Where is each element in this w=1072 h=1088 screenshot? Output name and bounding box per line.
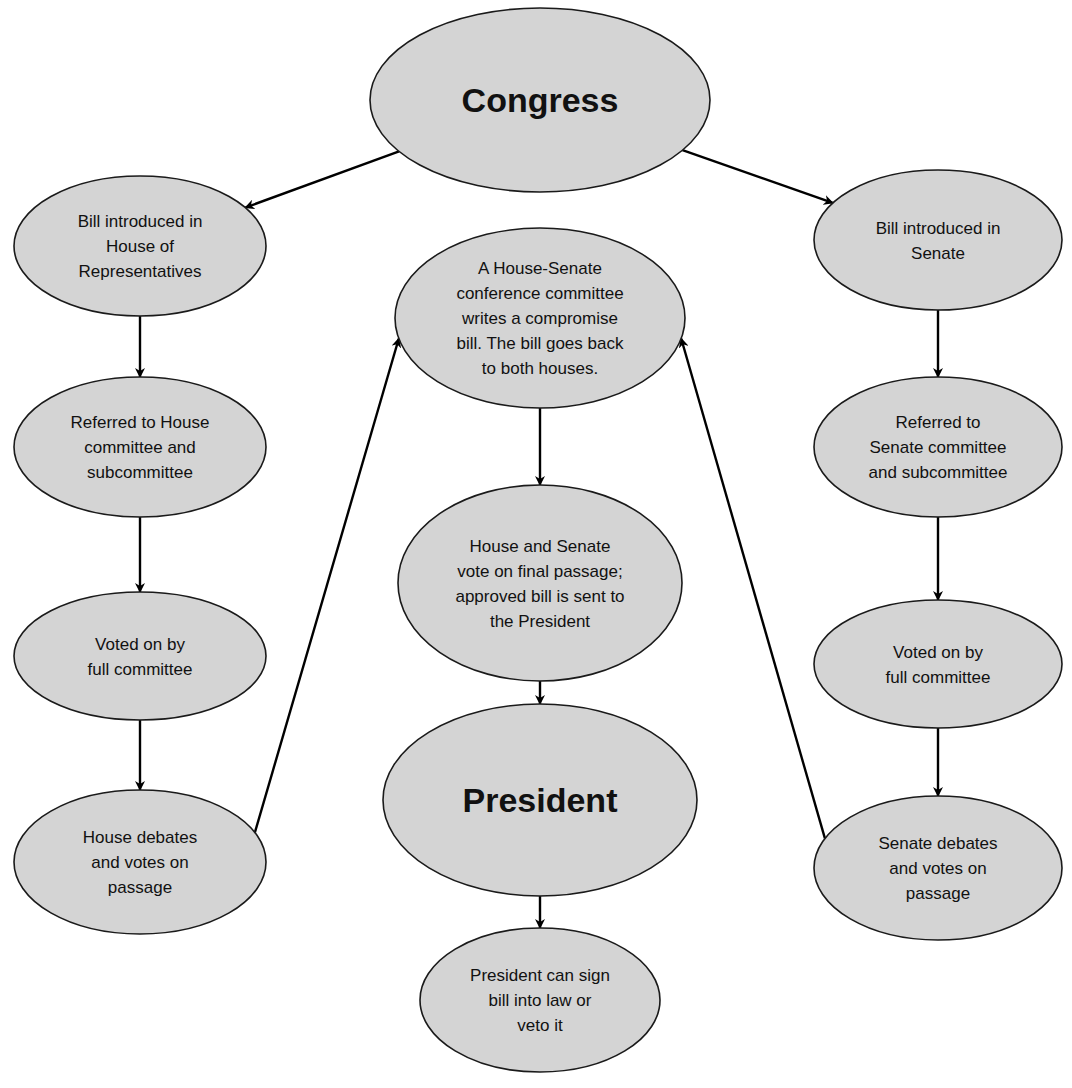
- node-label-line: Referred to House: [71, 413, 210, 432]
- node-label-line: Bill introduced in: [876, 219, 1001, 238]
- node-label-line: the President: [490, 612, 590, 631]
- node-label-line: veto it: [517, 1016, 563, 1035]
- arrow-senate-debate-to-conference: [681, 338, 825, 838]
- bill-to-law-flowchart: CongressBill introduced inHouse ofRepres…: [0, 0, 1072, 1088]
- node-label-line: subcommittee: [87, 463, 193, 482]
- node-label-line: bill into law or: [489, 991, 592, 1010]
- node-senate-debate: Senate debatesand votes onpassage: [814, 796, 1062, 940]
- node-label-line: Voted on by: [893, 643, 983, 662]
- node-label-line: to both houses.: [482, 359, 598, 378]
- node-label-line: full committee: [886, 668, 991, 687]
- node-label-line: committee and: [84, 438, 196, 457]
- node-senate-intro: Bill introduced inSenate: [814, 170, 1062, 310]
- arrow-house-debate-to-conference: [255, 338, 399, 832]
- node-house-full-vote: Voted on byfull committee: [14, 592, 266, 720]
- node-shape: [14, 592, 266, 720]
- node-shape: [814, 600, 1062, 728]
- node-label-line: Referred to: [895, 413, 980, 432]
- node-label-line: Voted on by: [95, 635, 185, 654]
- node-label-line: conference committee: [456, 284, 623, 303]
- node-label-line: House and Senate: [470, 537, 611, 556]
- node-house-committee: Referred to Housecommittee andsubcommitt…: [14, 377, 266, 517]
- node-label-line: A House-Senate: [478, 259, 602, 278]
- node-label-line: Representatives: [79, 262, 202, 281]
- arrow-congress-to-senate-intro: [683, 150, 833, 203]
- node-label-line: Senate committee: [869, 438, 1006, 457]
- node-label-line: full committee: [88, 660, 193, 679]
- node-label-line: writes a compromise: [461, 309, 618, 328]
- node-president: President: [383, 704, 697, 896]
- node-house-intro: Bill introduced inHouse ofRepresentative…: [14, 176, 266, 316]
- node-label-line: passage: [906, 884, 970, 903]
- node-shape: [398, 485, 682, 681]
- node-label-line: bill. The bill goes back: [457, 334, 624, 353]
- node-label-line: and votes on: [889, 859, 986, 878]
- node-label-line: President: [463, 781, 618, 819]
- node-house-debate: House debatesand votes onpassage: [14, 790, 266, 934]
- node-label-line: Senate debates: [878, 834, 997, 853]
- node-label-line: House of: [106, 237, 174, 256]
- node-label-line: and votes on: [91, 853, 188, 872]
- node-label-line: House debates: [83, 828, 197, 847]
- node-conference: A House-Senateconference committeewrites…: [395, 228, 685, 408]
- node-sign-veto: President can signbill into law orveto i…: [420, 928, 660, 1072]
- node-label-line: vote on final passage;: [457, 562, 622, 581]
- node-label-line: Bill introduced in: [78, 212, 203, 231]
- nodes: CongressBill introduced inHouse ofRepres…: [14, 8, 1062, 1072]
- node-label-line: Congress: [462, 81, 619, 119]
- node-congress: Congress: [370, 8, 710, 192]
- node-final-passage: House and Senatevote on final passage;ap…: [398, 485, 682, 681]
- node-label-line: President can sign: [470, 966, 610, 985]
- node-senate-committee: Referred toSenate committeeand subcommit…: [814, 377, 1062, 517]
- arrow-congress-to-house-intro: [245, 151, 399, 207]
- node-senate-full-vote: Voted on byfull committee: [814, 600, 1062, 728]
- node-label-line: passage: [108, 878, 172, 897]
- node-label-line: and subcommittee: [869, 463, 1008, 482]
- node-label-line: approved bill is sent to: [455, 587, 624, 606]
- node-shape: [814, 170, 1062, 310]
- node-label-line: Senate: [911, 244, 965, 263]
